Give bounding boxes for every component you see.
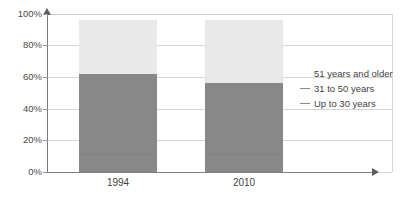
y-tick-mark-20 xyxy=(43,140,48,141)
bar-1994 xyxy=(79,14,157,172)
legend-marker-icon-up-to-30 xyxy=(300,103,310,104)
x-axis-arrow-icon xyxy=(372,168,379,176)
y-tick-mark-100 xyxy=(43,14,48,15)
y-axis-line xyxy=(47,14,48,172)
y-tick-mark-60 xyxy=(43,77,48,78)
bar-2010-segment-divider-up-to-30 xyxy=(205,154,283,155)
legend-label-up-to-30: Up to 30 years xyxy=(314,98,376,109)
legend-label-31-to-50: 31 to 50 years xyxy=(314,83,374,94)
legend-item-31-to-50[interactable]: 31 to 50 years xyxy=(300,81,410,96)
legend-item-51-and-older[interactable]: 51 years and older xyxy=(300,66,410,81)
x-axis-line xyxy=(47,172,373,173)
legend-marker-icon-51-and-older xyxy=(300,73,310,74)
legend-label-51-and-older: 51 years and older xyxy=(314,68,393,79)
y-tick-mark-80 xyxy=(43,45,48,46)
y-tick-label-20: 20% xyxy=(2,135,42,145)
bar-2010-segment-51-and-older xyxy=(205,20,283,83)
y-tick-label-0: 0% xyxy=(2,167,42,177)
stacked-bar-chart: 100% 80% 60% 40% 20% 0% 1994 2010 51 yea… xyxy=(0,0,414,198)
y-tick-mark-40 xyxy=(43,109,48,110)
x-tick-label-1994: 1994 xyxy=(73,177,163,189)
legend-item-up-to-30[interactable]: Up to 30 years xyxy=(300,96,410,111)
bar-1994-segment-31-to-50 xyxy=(79,74,157,172)
bar-2010-segment-31-to-50 xyxy=(205,83,283,172)
y-tick-label-80: 80% xyxy=(2,40,42,50)
bar-2010 xyxy=(205,14,283,172)
bar-1994-segment-divider-up-to-30 xyxy=(79,154,157,155)
y-tick-label-60: 60% xyxy=(2,72,42,82)
x-tick-label-2010: 2010 xyxy=(199,177,289,189)
legend-marker-icon-31-to-50 xyxy=(300,88,310,89)
bar-1994-segment-51-and-older xyxy=(79,20,157,74)
y-tick-label-100: 100% xyxy=(2,9,42,19)
y-tick-label-40: 40% xyxy=(2,104,42,114)
chart-legend: 51 years and older 31 to 50 years Up to … xyxy=(300,66,410,111)
